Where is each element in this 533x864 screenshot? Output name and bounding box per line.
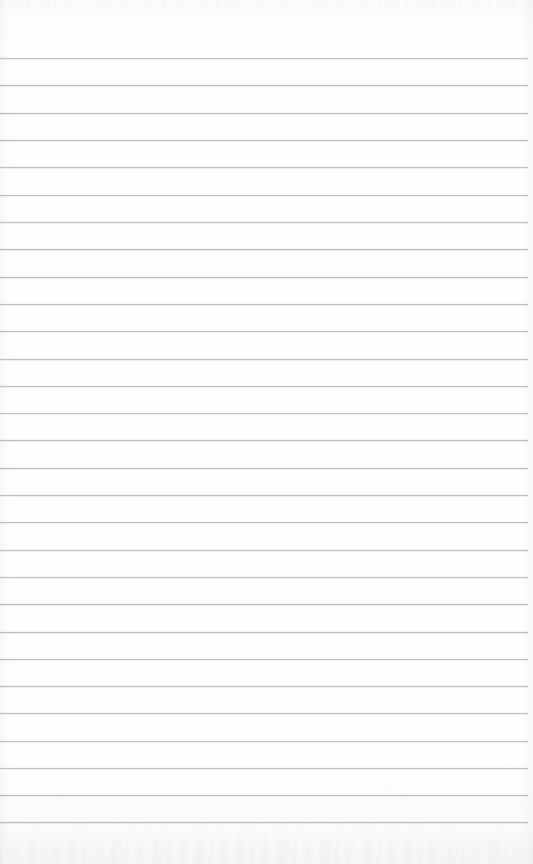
rule-line (0, 468, 528, 469)
rule-line (0, 768, 528, 769)
rule-line (0, 440, 528, 441)
rule-line (0, 604, 528, 605)
rule-line (0, 686, 528, 687)
rule-line (0, 741, 528, 742)
rule-line (0, 550, 528, 551)
rule-line (0, 167, 528, 168)
rule-line (0, 140, 528, 141)
rule-line (0, 222, 528, 223)
rule-line (0, 413, 528, 414)
rule-line (0, 85, 528, 86)
rule-line (0, 577, 528, 578)
notebook-page: Blank Ruled Notebook Page (0, 0, 533, 864)
rule-line (0, 713, 528, 714)
rule-line (0, 795, 528, 796)
rule-line (0, 522, 528, 523)
rule-line (0, 822, 528, 823)
rule-line (0, 304, 528, 305)
rule-line (0, 277, 528, 278)
rule-line (0, 495, 528, 496)
rule-line (0, 58, 528, 59)
ruled-lines-area (0, 0, 533, 864)
rule-line (0, 359, 528, 360)
rule-line (0, 632, 528, 633)
rule-line (0, 195, 528, 196)
rule-line (0, 659, 528, 660)
rule-line (0, 249, 528, 250)
rule-line (0, 386, 528, 387)
rule-line (0, 331, 528, 332)
rule-line (0, 113, 528, 114)
